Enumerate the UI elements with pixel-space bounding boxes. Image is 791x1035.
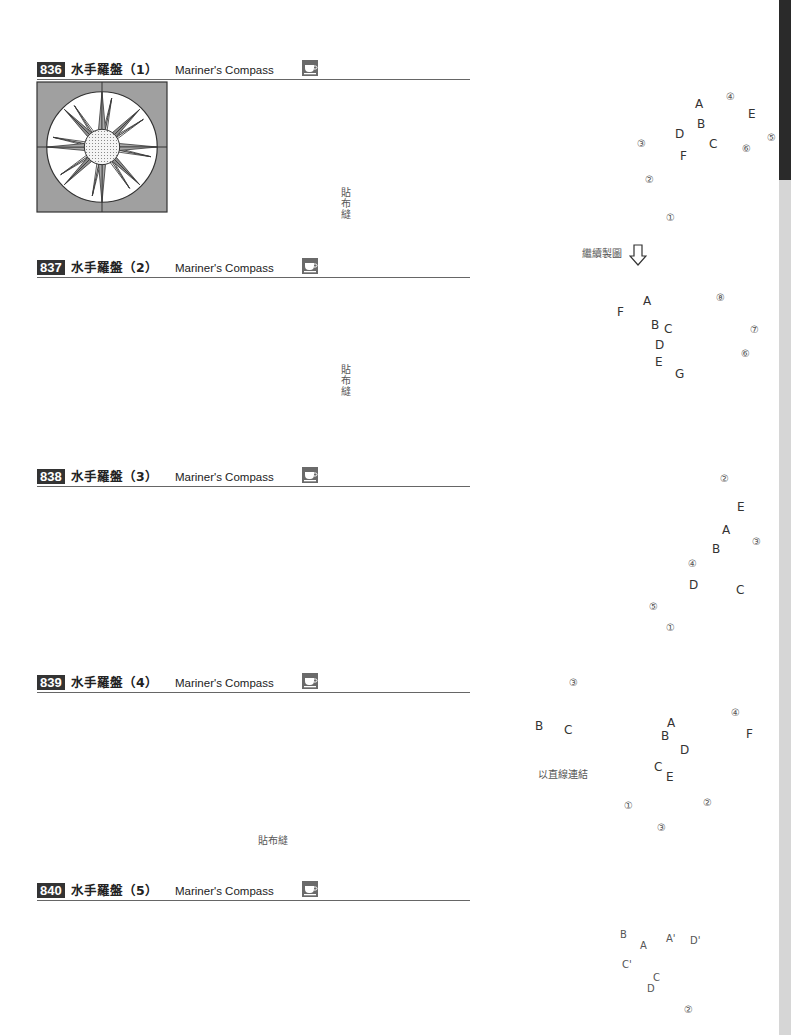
color-block-illustration [37,82,167,212]
applique-label: 貼布縫 [338,187,350,220]
step-label-3: ③ [752,536,761,548]
piece-label-C: C [709,138,717,150]
down-arrow-icon [629,244,647,270]
piece-label-E: E [748,108,756,120]
piece-label-D: D [655,339,664,351]
step-label-5: ⑤ [767,132,776,144]
step-label-8: ⑧ [716,292,725,304]
piece-label-D: D [647,983,655,995]
pattern-number: 840 [37,883,65,898]
applique-label: 貼布縫 [258,835,288,847]
piece-label-F: F [746,728,753,740]
step-label-2: ② [645,174,654,186]
piece-label-E: E [737,501,745,513]
step-label-2: ② [703,797,712,809]
step-label-6: ⑥ [742,143,751,155]
piece-label-E: E [666,771,674,783]
section-header: 839 水手羅盤（4） Mariner's Compass [37,675,470,693]
step-label-4: ④ [726,91,735,103]
pattern-title-zh: 水手羅盤（1） [71,62,158,77]
pattern-title-zh: 水手羅盤（3） [71,469,158,484]
section-839: 839 水手羅盤（4） Mariner's Compass 貼布縫 B C ③ … [0,675,780,875]
continue-drafting-label: 繼續製圖 [582,248,622,260]
teacup-icon [302,258,318,274]
section-840: 840 水手羅盤（5） Mariner's Compass B A A' D' … [0,883,780,1035]
connect-straight-label: 以直線連結 [538,769,588,781]
pattern-title-en: Mariner's Compass [175,676,274,691]
piece-label-C: C [736,584,744,596]
piece-label-D: D [675,128,684,140]
detail-step-3: ③ [569,677,578,689]
step-label-1: ① [666,212,675,224]
pattern-title-zh: 水手羅盤（4） [71,675,158,690]
teacup-icon [302,673,318,689]
step-label-3: ③ [637,138,646,150]
piece-label-E: E [655,356,663,368]
detail-piece-B: B [535,720,543,732]
piece-label-A: A [722,524,730,536]
side-tab-dark [779,0,791,180]
piece-label-B: B [712,543,720,555]
piece-label-D: D [689,579,698,591]
side-tab-light [779,180,791,1035]
step-label-6: ⑥ [741,348,750,360]
step-label-2: ② [720,473,729,485]
pattern-title-en: Mariner's Compass [175,261,274,276]
section-838: 838 水手羅盤（3） Mariner's Compass A B C D E … [0,469,780,669]
pattern-number: 837 [37,260,65,275]
teacup-icon [302,60,318,76]
pattern-title-zh: 水手羅盤（2） [71,260,158,275]
section-header: 840 水手羅盤（5） Mariner's Compass [37,883,470,901]
piece-label-C: C [664,323,672,335]
section-header: 836 水手羅盤（1） Mariner's Compass [37,62,470,80]
piece-label-A: A [667,717,675,729]
section-837: 837 水手羅盤（2） Mariner's Compass 貼布縫 繼續製圖 A… [0,260,780,460]
piece-label-A: A [640,940,647,952]
piece-label-B: B [697,118,705,130]
step-label-4: ④ [731,707,740,719]
pattern-number: 839 [37,675,65,690]
piece-label-F: F [680,150,687,162]
step-label-2: ② [684,1004,693,1016]
pattern-number: 836 [37,62,65,77]
section-header: 837 水手羅盤（2） Mariner's Compass [37,260,470,278]
pattern-number: 838 [37,469,65,484]
teacup-icon [302,467,318,483]
piece-label-B: B [661,730,669,742]
piece-label-F: F [617,306,624,318]
piece-label-B: B [651,319,659,331]
pattern-title-en: Mariner's Compass [175,63,274,78]
piece-label-A-prime: A' [666,933,676,945]
detail-piece-C: C [564,724,572,736]
piece-label-G: G [675,368,684,380]
step-label-1: ① [624,800,633,812]
step-label-1: ① [666,622,675,634]
section-header: 838 水手羅盤（3） Mariner's Compass [37,469,470,487]
section-836: 836 水手羅盤（1） Mariner's Compass 貼布縫 A B C … [0,62,780,252]
piece-label-D: D [680,744,689,756]
teacup-icon [302,881,318,897]
step-label-3: ③ [657,822,666,834]
pattern-title-en: Mariner's Compass [175,470,274,485]
piece-label-B: B [620,929,627,941]
piece-label-A: A [643,295,651,307]
piece-label-A: A [695,98,703,110]
step-label-5: ⑤ [649,601,658,613]
applique-label: 貼布縫 [338,364,350,397]
piece-label-C: C [654,761,662,773]
pattern-title-zh: 水手羅盤（5） [71,883,158,898]
pattern-title-en: Mariner's Compass [175,884,274,899]
step-label-7: ⑦ [750,324,759,336]
step-label-4: ④ [688,558,697,570]
piece-label-C-prime: C' [622,959,632,971]
piece-label-D-prime: D' [690,935,700,947]
